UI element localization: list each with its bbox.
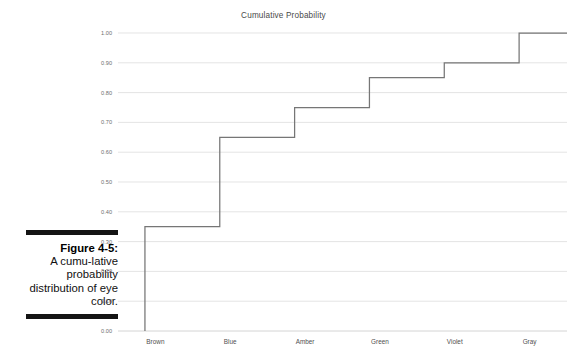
cumulative-probability-chart: Cumulative Probability 0.000.100.200.300… — [0, 0, 567, 363]
chart-plot-svg: 0.000.100.200.300.400.500.600.700.800.90… — [0, 0, 567, 363]
x-tick-label: Gray — [523, 338, 538, 346]
x-tick-label: Green — [371, 338, 389, 345]
y-tick-label: 0.40 — [101, 209, 112, 215]
y-tick-label: 0.80 — [101, 90, 112, 96]
y-tick-label: 0.30 — [101, 239, 112, 245]
x-tick-label: Blue — [224, 338, 237, 345]
figure-page: Figure 4-5: A cumu-lative probability di… — [0, 0, 567, 363]
y-tick-label: 0.70 — [101, 119, 112, 125]
y-tick-label: 1.00 — [101, 30, 112, 36]
y-tick-label: 0.50 — [101, 179, 112, 185]
y-axis-tick-labels: 0.000.100.200.300.400.500.600.700.800.90… — [101, 30, 112, 334]
x-tick-label: Amber — [296, 338, 316, 345]
y-tick-label: 0.90 — [101, 60, 112, 66]
gridlines-group — [118, 33, 567, 331]
x-tick-label: Brown — [146, 338, 165, 345]
y-tick-label: 0.00 — [101, 328, 112, 334]
x-tick-label: Violet — [447, 338, 463, 345]
y-tick-label: 0.10 — [101, 298, 112, 304]
y-tick-label: 0.60 — [101, 149, 112, 155]
y-tick-label: 0.20 — [101, 268, 112, 274]
x-axis-tick-labels: BrownBlueAmberGreenVioletGray — [146, 338, 537, 346]
